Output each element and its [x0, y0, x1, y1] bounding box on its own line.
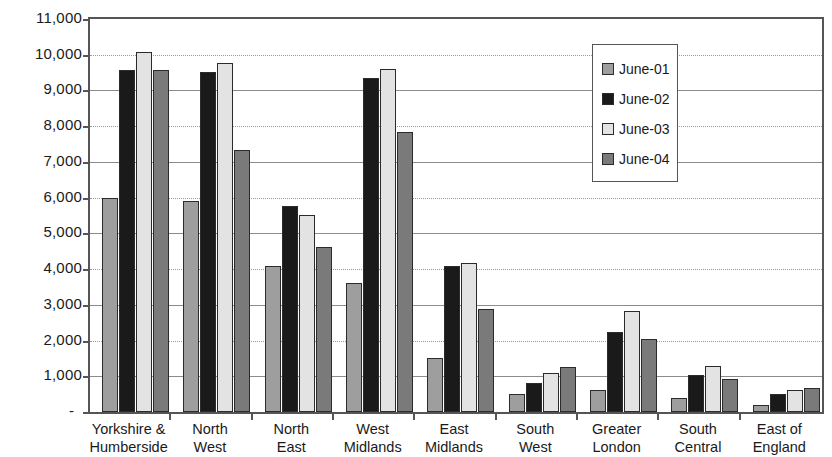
- category-label-line1: West: [356, 421, 389, 437]
- legend-label: June-03: [619, 122, 670, 136]
- y-axis-tick-label: 8,000: [4, 117, 82, 132]
- bar[interactable]: [509, 394, 525, 412]
- bar[interactable]: [316, 247, 332, 412]
- legend-label: June-02: [619, 92, 670, 106]
- bar[interactable]: [217, 63, 233, 412]
- y-axis-tick-label: 4,000: [4, 260, 82, 275]
- bar[interactable]: [787, 390, 803, 412]
- legend-label: June-04: [619, 152, 670, 166]
- y-axis-tick-label: -: [69, 403, 74, 418]
- bar[interactable]: [607, 332, 623, 412]
- bar[interactable]: [102, 198, 118, 412]
- bar[interactable]: [461, 263, 477, 412]
- x-axis-tick-mark: [332, 412, 334, 420]
- x-axis-tick-mark: [413, 412, 415, 420]
- bar-group: [102, 19, 169, 412]
- bars: [90, 19, 822, 412]
- y-axis-tick-label: 6,000: [4, 188, 82, 203]
- y-axis: 11,00010,0009,0008,0007,0006,0005,0004,0…: [0, 0, 82, 457]
- bar-chart: 11,00010,0009,0008,0007,0006,0005,0004,0…: [0, 0, 832, 457]
- bar[interactable]: [671, 398, 687, 412]
- legend-swatch-icon: [602, 93, 614, 105]
- bar[interactable]: [543, 373, 559, 412]
- bar-group: [427, 19, 494, 412]
- legend-swatch-icon: [602, 63, 614, 75]
- x-axis-labels: Yorkshire &HumbersideNorthWestNorthEastW…: [88, 420, 820, 457]
- legend-label: June-01: [619, 62, 670, 76]
- bar[interactable]: [590, 390, 606, 412]
- legend-item[interactable]: June-02: [602, 84, 677, 114]
- y-axis-tick-mark: [83, 376, 90, 378]
- bar[interactable]: [560, 367, 576, 412]
- bar-group: [265, 19, 332, 412]
- bar[interactable]: [265, 266, 281, 412]
- y-axis-tick-label: 2,000: [4, 331, 82, 346]
- bar[interactable]: [705, 366, 721, 412]
- x-axis-tick-mark: [739, 412, 741, 420]
- bar[interactable]: [119, 70, 135, 412]
- y-axis-tick-label: 11,000: [4, 10, 82, 25]
- y-axis-tick-label: 7,000: [4, 152, 82, 167]
- legend-item[interactable]: June-03: [602, 114, 677, 144]
- y-axis-tick-mark: [83, 19, 90, 21]
- category-label-line1: Yorkshire &: [92, 421, 166, 437]
- x-axis-tick-mark: [169, 412, 171, 420]
- bar[interactable]: [753, 405, 769, 413]
- y-axis-tick-mark: [83, 126, 90, 128]
- bar-group: [183, 19, 250, 412]
- category-label-line1: South: [679, 421, 717, 437]
- legend-item[interactable]: June-04: [602, 144, 677, 174]
- plot-area: [88, 17, 824, 414]
- bar[interactable]: [397, 132, 413, 412]
- y-axis-tick-mark: [83, 305, 90, 307]
- category-label-line1: North: [274, 421, 309, 437]
- bar[interactable]: [526, 383, 542, 412]
- bar[interactable]: [722, 379, 738, 412]
- bar-group: [753, 19, 820, 412]
- x-axis-category-label: East ofEngland: [729, 420, 830, 456]
- bar[interactable]: [380, 69, 396, 412]
- bar[interactable]: [183, 201, 199, 412]
- legend-swatch-icon: [602, 123, 614, 135]
- y-axis-tick-label: 9,000: [4, 81, 82, 96]
- y-axis-tick-mark: [83, 198, 90, 200]
- y-axis-tick-mark: [83, 269, 90, 271]
- bar[interactable]: [641, 339, 657, 412]
- bar[interactable]: [282, 206, 298, 413]
- bar[interactable]: [444, 266, 460, 412]
- category-label-line1: Greater: [592, 421, 641, 437]
- bar[interactable]: [234, 150, 250, 412]
- category-label-line1: North: [192, 421, 227, 437]
- bar[interactable]: [770, 394, 786, 412]
- bar[interactable]: [136, 52, 152, 412]
- y-axis-tick-label: 3,000: [4, 295, 82, 310]
- category-label-line1: South: [516, 421, 554, 437]
- category-label-line1: East of: [757, 421, 802, 437]
- y-axis-tick-mark: [83, 162, 90, 164]
- x-axis-tick-mark: [576, 412, 578, 420]
- x-axis-tick-mark: [251, 412, 253, 420]
- x-axis-tick-mark: [495, 412, 497, 420]
- bar[interactable]: [363, 78, 379, 412]
- bar[interactable]: [804, 388, 820, 412]
- y-axis-tick-mark: [83, 90, 90, 92]
- bar[interactable]: [427, 358, 443, 412]
- category-label-line1: East: [439, 421, 468, 437]
- bar[interactable]: [346, 283, 362, 412]
- y-axis-tick-mark: [83, 55, 90, 57]
- bar[interactable]: [688, 375, 704, 412]
- bar[interactable]: [624, 311, 640, 412]
- y-axis-tick-label: 10,000: [4, 45, 82, 60]
- chart-legend: June-01June-02June-03June-04: [592, 44, 678, 182]
- bar[interactable]: [478, 309, 494, 412]
- y-axis-tick-label: 1,000: [4, 367, 82, 382]
- bar[interactable]: [200, 72, 216, 412]
- legend-item[interactable]: June-01: [602, 54, 677, 84]
- bar-group: [509, 19, 576, 412]
- bar[interactable]: [299, 215, 315, 412]
- bar-group: [346, 19, 413, 412]
- bar[interactable]: [153, 70, 169, 412]
- y-axis-tick-label: 5,000: [4, 224, 82, 239]
- x-axis-tick-mark: [657, 412, 659, 420]
- legend-swatch-icon: [602, 153, 614, 165]
